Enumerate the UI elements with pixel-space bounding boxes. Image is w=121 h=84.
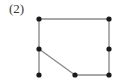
vertex-dot-top-right — [106, 16, 111, 21]
figure-panel: (2) — [0, 0, 121, 84]
vertex-dot-bottom-right — [106, 72, 111, 77]
vertex-dot-left-middle — [36, 46, 41, 51]
vertex-dot-right-middle — [106, 46, 111, 51]
vertex-dot-top-left — [36, 16, 41, 21]
edge-layer — [39, 19, 109, 75]
vertex-dot-bottom-middle — [72, 72, 77, 77]
diagonal-edge — [39, 49, 75, 75]
polygon-diagram — [0, 0, 121, 84]
vertex-layer — [36, 16, 111, 77]
vertex-dot-bottom-left — [36, 72, 41, 77]
